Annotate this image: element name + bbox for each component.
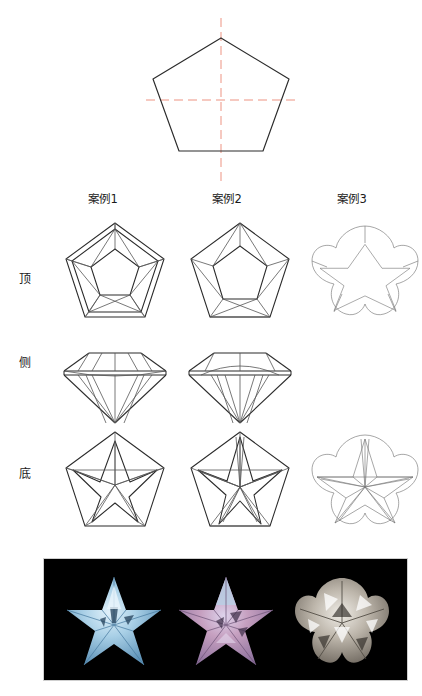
diagram-grid [0, 213, 422, 543]
gem-photo-clear-flower [294, 573, 390, 669]
diagram-case1-bottom [56, 425, 174, 543]
gem-photo-pink-star [178, 573, 274, 669]
diagram-case2-bottom [181, 425, 299, 543]
diagram-case1-side [56, 341, 174, 427]
column-header-case2: 案例2 [172, 191, 282, 207]
gem-photo-blue-star [66, 573, 162, 669]
construction-figure [0, 0, 422, 185]
diagram-case3-side-empty [306, 341, 422, 427]
diagram-case2-top [181, 216, 299, 334]
column-header-case3: 案例3 [297, 191, 407, 207]
diagram-case1-top [56, 216, 174, 334]
gemstone-photo-strip [43, 558, 408, 681]
diagram-case3-top [306, 216, 422, 334]
diagram-case3-bottom [306, 425, 422, 543]
column-header-case1: 案例1 [48, 191, 158, 207]
column-headers: 案例1 案例2 案例3 [0, 191, 422, 213]
diagram-case2-side [181, 341, 299, 427]
